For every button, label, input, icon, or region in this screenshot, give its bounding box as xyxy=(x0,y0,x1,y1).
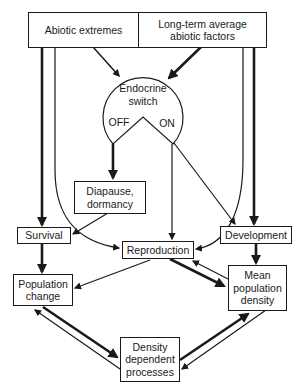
arrow-density-to-popchange xyxy=(35,310,120,369)
arrow-diapause-to-survival xyxy=(73,213,108,234)
arrow-popchange-to-density xyxy=(43,307,117,357)
node-long-term-average: Long-term average abiotic factors xyxy=(138,12,267,48)
switch-on-label: ON xyxy=(156,117,178,130)
arrow-longterm-to-switch xyxy=(169,47,201,78)
node-density-dependent-processes: Density dependent processes xyxy=(120,337,180,382)
arrow-meandensity-to-reproduction xyxy=(193,261,228,279)
arrow-density-to-meandensity xyxy=(180,314,248,360)
diagram-connectors xyxy=(0,0,304,392)
node-survival: Survival xyxy=(17,227,71,244)
arrow-on-to-development xyxy=(174,143,235,224)
arrow-longterm-to-reproduction xyxy=(196,47,243,249)
switch-off-label: OFF xyxy=(106,116,132,129)
arrow-abiotic-to-reproduction xyxy=(55,47,119,248)
node-diapause: Diapause, dormancy xyxy=(74,181,146,214)
node-development: Development xyxy=(220,226,292,244)
arrow-reproduction-to-popchange xyxy=(75,260,150,288)
node-reproduction: Reproduction xyxy=(122,241,194,259)
node-mean-population-density: Mean population density xyxy=(228,265,287,311)
node-abiotic-extremes: Abiotic extremes xyxy=(28,12,139,48)
endocrine-switch-label: Endocrine switch xyxy=(110,82,176,107)
arrow-meandensity-to-density xyxy=(182,310,266,369)
arrow-abiotic-to-switch xyxy=(93,47,119,76)
node-population-change: Population change xyxy=(13,274,73,306)
